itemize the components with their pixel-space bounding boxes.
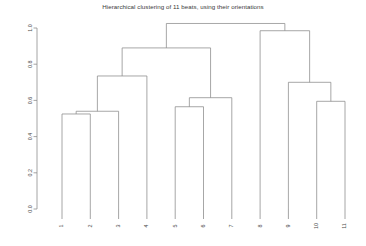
- leaf-label: 4: [143, 225, 149, 228]
- dendrogram-link: [189, 98, 231, 209]
- leaf-label: 9: [285, 225, 291, 228]
- y-tick-label: 0.6: [27, 97, 33, 105]
- dendrogram-link: [166, 23, 284, 47]
- dendrogram-link: [317, 101, 345, 209]
- dendrogram-link: [97, 76, 147, 209]
- dendrogram-figure: Hierarchical clustering of 11 beats, usi…: [0, 0, 366, 246]
- leaf-label: 1: [58, 225, 64, 228]
- leaf-label: 6: [200, 225, 206, 228]
- leaf-label: 7: [228, 225, 234, 228]
- dendrogram-svg: 1.00.80.60.40.20.01234567891011: [0, 0, 366, 246]
- leaf-label: 2: [87, 225, 93, 228]
- dendrogram-links: [62, 23, 345, 209]
- dendrogram-link: [122, 48, 210, 98]
- dendrogram-link: [175, 107, 203, 209]
- dendrogram-link: [76, 111, 118, 209]
- leaf-label: 11: [341, 223, 347, 229]
- leaf-label: 8: [257, 225, 263, 228]
- dendrogram-link: [62, 114, 90, 209]
- y-tick-label: 0.8: [27, 60, 33, 68]
- leaf-label: 5: [172, 225, 178, 228]
- leaf-label: 3: [115, 225, 121, 228]
- leaf-labels: 1234567891011: [58, 209, 347, 229]
- y-tick-label: 0.4: [27, 133, 33, 141]
- leaf-label: 10: [313, 223, 319, 229]
- y-axis: 1.00.80.60.40.20.0: [27, 24, 37, 213]
- plot-area: 1.00.80.60.40.20.01234567891011: [0, 0, 366, 246]
- y-tick-label: 1.0: [27, 24, 33, 32]
- y-tick-label: 0.2: [27, 169, 33, 177]
- y-tick-label: 0.0: [27, 205, 33, 213]
- dendrogram-link: [260, 31, 310, 209]
